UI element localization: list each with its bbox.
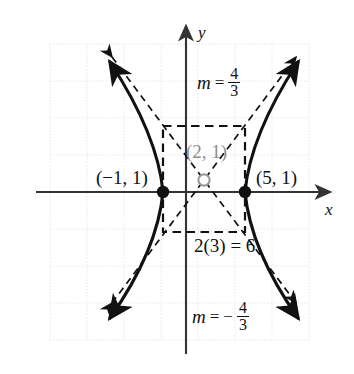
slope-negative-denominator: 3 (237, 316, 249, 333)
slope-negative-sign: − (223, 308, 233, 325)
slope-positive-equals: = (215, 74, 225, 91)
slope-positive-variable: m (197, 73, 211, 92)
slope-negative-fraction: 4 3 (237, 300, 249, 334)
y-axis-label: y (198, 24, 206, 41)
slope-negative-variable: m (192, 307, 206, 326)
right-vertex-point (239, 186, 251, 198)
slope-positive-label: m = 4 3 (197, 66, 240, 100)
slope-positive-numerator: 4 (228, 66, 240, 82)
slope-negative-numerator: 4 (237, 300, 249, 316)
slope-positive-fraction: 4 3 (228, 66, 240, 100)
slope-positive-denominator: 3 (228, 82, 240, 99)
center-label: (2, 1) (186, 142, 227, 161)
left-vertex-point (157, 186, 169, 198)
x-axis-label: x (325, 201, 333, 218)
rectangle-width-label: 2(3) = 6 (194, 236, 255, 255)
center-point (198, 174, 209, 185)
left-branch-lower (110, 192, 163, 318)
left-vertex-label: (−1, 1) (96, 168, 148, 187)
slope-negative-label: m = − 4 3 (192, 300, 249, 334)
hyperbola-branches (110, 62, 298, 318)
hyperbola-figure (0, 0, 354, 374)
right-vertex-label: (5, 1) (256, 168, 297, 187)
slope-negative-equals: = (210, 308, 220, 325)
